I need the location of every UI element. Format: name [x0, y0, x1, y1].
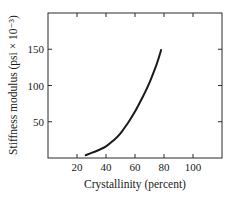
- y-axis-label: Stiffness modulus (psi × 10⁻³): [7, 15, 20, 155]
- x-tick-label: 40: [101, 161, 113, 173]
- x-axis-label: Crystallinity (percent): [84, 178, 186, 191]
- x-tick-label: 100: [185, 161, 202, 173]
- x-tick-label: 20: [72, 161, 84, 173]
- plot-frame: [48, 13, 222, 158]
- x-tick-label: 60: [130, 161, 142, 173]
- x-axis-ticks: 20406080100: [72, 13, 202, 173]
- y-tick-label: 50: [33, 116, 45, 128]
- data-curve: [86, 50, 161, 155]
- y-axis-ticks: 50100150: [28, 43, 223, 128]
- y-tick-label: 100: [28, 80, 45, 92]
- x-tick-label: 80: [159, 161, 171, 173]
- stiffness-crystallinity-chart: 20406080100 50100150 Crystallinity (perc…: [0, 0, 232, 200]
- y-tick-label: 150: [28, 43, 45, 55]
